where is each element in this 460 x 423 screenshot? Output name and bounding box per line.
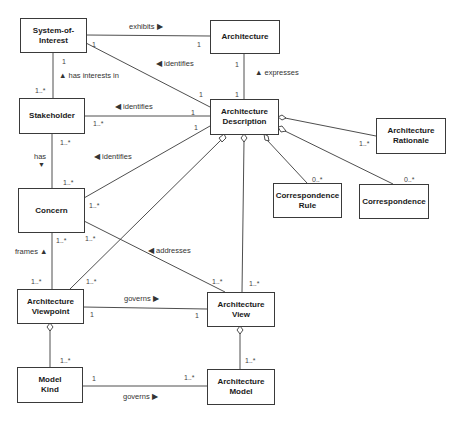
- class-correspondence: Correspondence: [359, 184, 429, 219]
- class-architecture-description: Architecture Description: [210, 99, 279, 135]
- label-identifies-concern: ◀ identifies: [94, 152, 132, 161]
- aggregation-diamond-icon: [278, 126, 286, 132]
- aggregation-diamond-icon: [264, 134, 269, 141]
- mult-correspondence: 0..*: [404, 176, 415, 184]
- mult-ad-concern: 1: [194, 124, 198, 132]
- class-architecture: Architecture: [210, 20, 280, 54]
- mult-concern-has: 1..*: [63, 179, 74, 187]
- aggregation-diamond-icon: [47, 323, 53, 331]
- label-addresses: ◀ addresses: [148, 246, 191, 255]
- class-correspondence-rule: Correspondence Rule: [273, 183, 342, 218]
- uml-class-diagram: System-of- Interest Architecture Stakeho…: [0, 0, 460, 423]
- mult-rationale: 1..*: [359, 140, 370, 148]
- mult-concern-addresses: 1..*: [85, 235, 96, 243]
- label-identifies-soi: ◀ identifies: [156, 59, 194, 68]
- mult-stake-soi: 1..*: [35, 87, 46, 95]
- aggregation-diamond-icon: [278, 115, 286, 120]
- has-arrow-icon: ▼: [38, 160, 45, 169]
- class-concern: Concern: [18, 188, 85, 233]
- class-architecture-viewpoint: Architecture Viewpoint: [17, 289, 84, 324]
- class-stakeholder: Stakeholder: [19, 98, 85, 134]
- mult-concern-ad: 1..*: [89, 202, 100, 210]
- mult-vp-frames: 1..*: [31, 278, 42, 286]
- addresses-line: [84, 221, 225, 292]
- mult-model-governs: 1..*: [184, 374, 195, 382]
- class-system-of-interest: System-of- Interest: [20, 18, 87, 53]
- governs-view-line: [83, 307, 207, 309]
- class-architecture-rationale: Architecture Rationale: [376, 118, 446, 154]
- mult-correspondence-rule: 0..*: [312, 176, 323, 184]
- ad-rationale-line: [285, 118, 376, 136]
- mult-stake-ad: 1..*: [93, 120, 104, 128]
- mult-ad-stake: 1: [191, 109, 195, 117]
- mult-view-governs: 1: [195, 312, 199, 320]
- class-architecture-view: Architecture View: [207, 292, 275, 327]
- mult-ad-expresses: 1: [235, 91, 239, 99]
- mult-soi-stake: 1: [62, 58, 66, 66]
- aggregation-diamond-icon: [237, 326, 243, 334]
- mult-mk-governs: 1: [92, 375, 96, 383]
- mult-view-ad: 1..*: [249, 280, 260, 288]
- aggregation-diamond-icon: [241, 134, 247, 142]
- mult-vp-ad: 1..*: [86, 278, 97, 286]
- label-governs-model: governs ▶: [123, 392, 158, 401]
- mult-ad-identifies-soi: 1: [199, 91, 203, 99]
- class-model-kind: Model Kind: [17, 367, 83, 403]
- label-exhibits: exhibits ▶: [129, 22, 163, 31]
- label-expresses: ▲ expresses: [255, 68, 299, 77]
- mult-model-aggregation: 1..*: [245, 357, 256, 365]
- mult-concern-frames: 1..*: [56, 237, 67, 245]
- label-governs-view: governs ▶: [124, 294, 159, 303]
- mult-arch-exhibits: 1: [197, 41, 201, 49]
- ad-view-aggregation-line: [242, 141, 244, 292]
- class-architecture-model: Architecture Model: [207, 369, 275, 405]
- label-frames: frames ▲: [15, 247, 47, 256]
- mult-vp-governs: 1: [90, 311, 94, 319]
- mult-arch-expresses: 1: [235, 61, 239, 69]
- mult-mk-aggregation: 1..*: [60, 357, 71, 365]
- mult-stake-has: 1..*: [60, 139, 71, 147]
- ad-correspondence-rule-line: [267, 140, 307, 183]
- concern-identifies-line: [84, 126, 210, 198]
- label-identifies-stakeholder: ◀ identifies: [115, 102, 153, 111]
- mult-view-addresses: 1..*: [212, 278, 223, 286]
- mult-soi-exhibits: 1: [92, 41, 96, 49]
- exhibits-line: [86, 35, 210, 36]
- label-has-interests-in: ▲ has interests in: [59, 71, 119, 80]
